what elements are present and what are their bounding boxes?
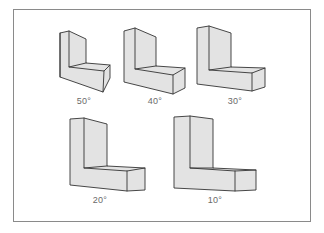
l-block-20 <box>70 118 145 191</box>
l-blocks-diagram <box>0 0 324 233</box>
angle-label-50: 50° <box>77 96 92 106</box>
angle-label-20: 20° <box>93 195 108 205</box>
l-block-50 <box>60 31 110 92</box>
l-block-30 <box>197 26 265 91</box>
l-block-10 <box>174 116 256 191</box>
angle-label-30: 30° <box>228 96 243 106</box>
angle-label-10: 10° <box>208 195 223 205</box>
angle-label-40: 40° <box>148 96 163 106</box>
l-block-40 <box>124 28 185 94</box>
